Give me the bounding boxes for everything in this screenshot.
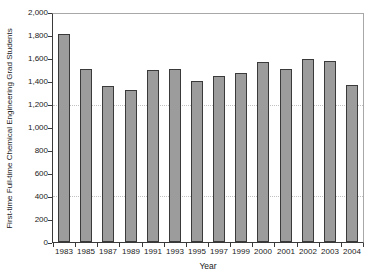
y-tick-mark-1800 [48,36,52,37]
bar-2004 [346,85,358,242]
y-tick-mark-600 [48,174,52,175]
plot-area [52,13,364,243]
y-tick-mark-1000 [48,128,52,129]
y-tick-label-600: 600 [0,169,48,179]
y-tick-mark-1600 [48,59,52,60]
y-tick-label-2000: 2,000 [0,8,48,18]
gridline-1200 [53,105,363,106]
gridline-400 [53,196,363,197]
bar-2001 [280,69,292,242]
bar-2002 [302,59,314,242]
y-tick-mark-200 [48,220,52,221]
y-tick-label-1200: 1,200 [0,100,48,110]
y-tick-mark-400 [48,197,52,198]
y-tick-mark-800 [48,151,52,152]
bar-1995 [191,81,203,242]
x-tick-label-2004: 2004 [338,247,366,257]
y-tick-label-1000: 1,000 [0,123,48,133]
bar-chart-figure: First-time Full-time Chemical Engineerin… [0,0,376,278]
bar-1997 [213,76,225,242]
bar-2003 [324,61,336,242]
bar-1985 [80,69,92,242]
y-tick-label-1400: 1,400 [0,77,48,87]
y-tick-label-0: 0 [0,238,48,248]
y-tick-label-200: 200 [0,215,48,225]
bar-1987 [102,86,114,242]
bar-2000 [257,62,269,242]
bar-1991 [147,70,159,242]
y-tick-label-400: 400 [0,192,48,202]
y-tick-label-1800: 1,800 [0,31,48,41]
bar-1983 [58,34,70,242]
bar-1999 [235,73,247,242]
y-tick-mark-1200 [48,105,52,106]
x-axis-title: Year [52,261,364,271]
y-tick-label-1600: 1,600 [0,54,48,64]
bar-1993 [169,69,181,242]
y-tick-mark-0 [48,243,52,244]
y-tick-label-800: 800 [0,146,48,156]
y-tick-mark-1400 [48,82,52,83]
bar-1989 [125,90,137,242]
y-tick-mark-2000 [48,13,52,14]
